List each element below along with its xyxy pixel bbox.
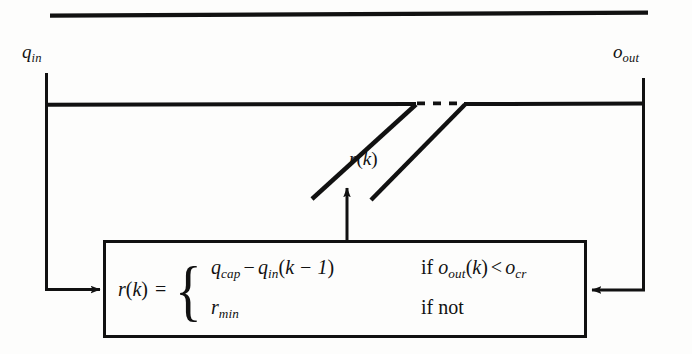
formula-lhs: r(k): [118, 278, 153, 301]
diagram-canvas: qin oout r(k) r(k) = { qcap−qin(k − 1) i…: [0, 0, 692, 354]
case1-term1-symbol: q: [211, 256, 221, 278]
oout-subscript: out: [623, 51, 640, 65]
mainline-top-line: [50, 13, 648, 16]
case1-cond-left-subscript: out: [448, 266, 465, 281]
case-row: qcap−qin(k − 1) if oout(k)<ocr: [211, 256, 527, 282]
case1-operator: −: [241, 256, 258, 278]
case2-term1-symbol: r: [211, 296, 219, 318]
oout-symbol: o: [613, 41, 623, 62]
formula-lhs-symbol: r: [118, 278, 126, 300]
case2-term1-subscript: min: [219, 306, 239, 321]
case1-keyword: if: [421, 256, 433, 278]
case1-relation: <: [488, 256, 505, 278]
case1-cond-right-subscript: cr: [515, 266, 526, 281]
port-label-qin: qin: [22, 42, 42, 64]
case1-term2-subscript: in: [268, 266, 279, 281]
ramp-rate-argument: k: [363, 148, 371, 169]
case1-term2-argument: k − 1: [285, 256, 327, 278]
case2-keyword: if not: [421, 296, 464, 318]
case1-cond-left-argument: k: [472, 256, 481, 278]
case-expression: qcap−qin(k − 1): [211, 256, 421, 282]
cases-list: qcap−qin(k − 1) if oout(k)<ocr rmin if n…: [207, 256, 527, 321]
case1-cond-right-symbol: o: [505, 256, 515, 278]
onramp-right-diagonal-line: [371, 105, 465, 201]
port-label-oout: oout: [613, 42, 639, 64]
case-expression: rmin: [211, 296, 421, 322]
controller-formula: r(k) = { qcap−qin(k − 1) if oout(k)<ocr …: [118, 249, 578, 329]
qin-symbol: q: [22, 41, 32, 62]
case1-term1-subscript: cap: [221, 266, 241, 281]
case-condition: if not: [421, 296, 464, 319]
case-condition: if oout(k)<ocr: [421, 256, 527, 282]
oout-feed-path: [592, 78, 644, 290]
formula-equals: =: [153, 278, 172, 301]
qin-subscript: in: [32, 51, 42, 65]
ramp-rate-label: r(k): [349, 149, 378, 168]
case1-term2-symbol: q: [258, 256, 268, 278]
case-row: rmin if not: [211, 296, 527, 322]
case1-cond-left-symbol: o: [438, 256, 448, 278]
mainline-carriageway-left: [46, 104, 416, 105]
